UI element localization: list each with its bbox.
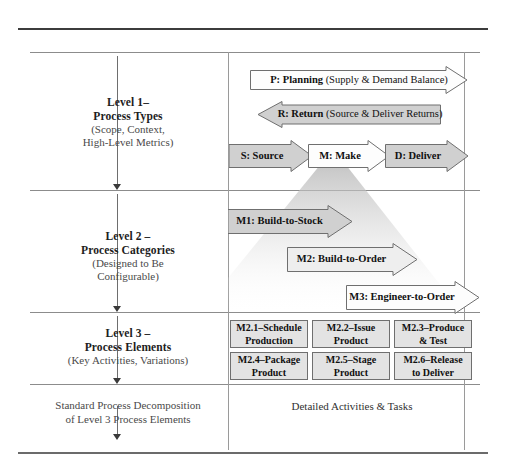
arrow-planning-detail: (Supply & Demand Balance) [323, 74, 448, 85]
rule-above-level-1 [30, 52, 480, 53]
element-box-m2-5-line2: Product [334, 367, 368, 378]
arrow-return-code: R: Return [278, 108, 324, 119]
arrow-deliver-label: D: Deliver [395, 151, 459, 162]
arrow-build-to-stock[interactable]: M1: Build-to-Stock [228, 205, 353, 238]
arrow-engineer-to-order-label: M3: Engineer-to-Order [349, 292, 476, 303]
level-3-label: Level 3 – Process Elements (Key Activiti… [30, 326, 226, 367]
arrow-planning-label: P: Planning (Supply & Demand Balance) [270, 75, 448, 86]
element-box-m2-2[interactable]: M2.2–Issue Product [312, 320, 390, 348]
element-box-m2-3[interactable]: M2.3–Produce & Test [394, 320, 472, 348]
level-3-subtitle-line1: (Key Activities, Variations) [30, 354, 226, 367]
element-box-m2-1[interactable]: M2.1–Schedule Production [230, 320, 308, 348]
connector-arrowhead-level-2 [113, 184, 121, 190]
element-box-m2-5-text: M2.5–Stage Product [326, 353, 376, 379]
rule-level-3-decomposition [30, 384, 480, 385]
element-box-m2-6-line1: M2.6–Release [403, 354, 462, 365]
figure-top-border [18, 28, 488, 30]
level-2-subtitle-line2: Configurable) [30, 270, 226, 283]
arrow-engineer-to-order[interactable]: M3: Engineer-to-Order [346, 281, 480, 314]
element-box-m2-3-line1: M2.3–Produce [402, 322, 464, 333]
arrow-make-label: M: Make [319, 151, 379, 162]
connector-arrowhead-bottom [113, 434, 121, 440]
level-3-title-line2: Process Elements [30, 340, 226, 354]
level-2-title-line1: Level 2 – [30, 229, 226, 243]
rule-level-1-level-2 [30, 190, 480, 191]
arrow-build-to-order[interactable]: M2: Build-to-Order [287, 243, 418, 276]
element-box-m2-1-text: M2.1–Schedule Production [236, 321, 301, 347]
element-box-m2-3-line2: & Test [419, 335, 447, 346]
element-box-m2-3-text: M2.3–Produce & Test [402, 321, 464, 347]
level-3-title-line1: Level 3 – [30, 326, 226, 340]
level-1-subtitle-line1: (Scope, Context, [30, 123, 226, 136]
element-box-m2-1-line1: M2.1–Schedule [236, 322, 301, 333]
arrow-return-detail: (Source & Deliver Returns) [323, 108, 442, 119]
level-1-subtitle-line2: High-Level Metrics) [30, 136, 226, 149]
element-box-m2-1-line2: Production [245, 335, 293, 346]
detailed-activities-label: Detailed Activities & Tasks [240, 400, 464, 412]
arrow-return[interactable]: R: Return (Source & Deliver Returns) [257, 101, 441, 128]
decomposition-line2: of Level 3 Process Elements [26, 412, 230, 426]
element-box-m2-6-text: M2.6–Release to Deliver [403, 353, 462, 379]
arrow-planning-code: P: Planning [270, 74, 323, 85]
element-box-m2-2-text: M2.2–Issue Product [327, 321, 376, 347]
element-box-m2-4-line2: Product [252, 367, 286, 378]
level-2-subtitle-line1: (Designed to Be [30, 257, 226, 270]
arrow-build-to-stock-label: M1: Build-to-Stock [236, 216, 345, 227]
level-1-label: Level 1– Process Types (Scope, Context, … [30, 95, 226, 150]
connector-arrowhead-decomposition [113, 378, 121, 384]
level-2-label: Level 2 – Process Categories (Designed t… [30, 229, 226, 284]
element-box-m2-6-line2: to Deliver [412, 367, 454, 378]
figure-bottom-border [18, 452, 488, 454]
arrow-source[interactable]: S: Source [229, 140, 313, 172]
element-box-m2-2-line1: M2.2–Issue [327, 322, 376, 333]
arrow-build-to-order-label: M2: Build-to-Order [297, 254, 409, 265]
element-box-m2-5[interactable]: M2.5–Stage Product [312, 352, 390, 380]
element-box-m2-4-line1: M2.4–Package [238, 354, 301, 365]
level-2-title-line2: Process Categories [30, 243, 226, 257]
level-1-title-line2: Process Types [30, 109, 226, 123]
element-box-m2-4[interactable]: M2.4–Package Product [230, 352, 308, 380]
column-divider-left [228, 52, 229, 450]
column-divider-right [464, 52, 465, 450]
arrow-source-label: S: Source [241, 151, 302, 162]
connector-arrowhead-level-3 [113, 306, 121, 312]
element-box-m2-6[interactable]: M2.6–Release to Deliver [394, 352, 472, 380]
scor-level-diagram: Level 1– Process Types (Scope, Context, … [0, 0, 506, 467]
element-box-m2-5-line1: M2.5–Stage [326, 354, 376, 365]
element-box-m2-4-text: M2.4–Package Product [238, 353, 301, 379]
arrow-return-label: R: Return (Source & Deliver Returns) [256, 109, 443, 120]
arrow-deliver[interactable]: D: Deliver [385, 140, 469, 172]
decomposition-label: Standard Process Decomposition of Level … [26, 398, 230, 426]
arrow-make[interactable]: M: Make [308, 140, 390, 172]
element-box-m2-2-line2: Product [334, 335, 368, 346]
level-1-title-line1: Level 1– [30, 95, 226, 109]
decomposition-line1: Standard Process Decomposition [26, 398, 230, 412]
arrow-planning[interactable]: P: Planning (Supply & Demand Balance) [250, 66, 468, 94]
